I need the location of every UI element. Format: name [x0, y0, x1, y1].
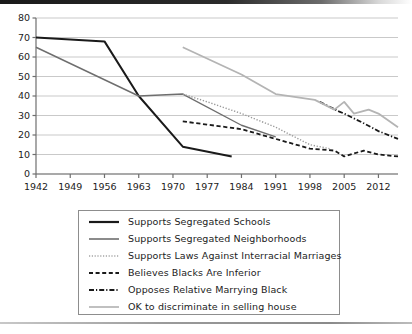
x-tick-label: 1991: [264, 181, 288, 192]
legend-item: Opposes Relative Marrying Black: [89, 281, 339, 298]
x-tick-label: 1970: [161, 181, 185, 192]
x-tick-label: 1942: [24, 181, 48, 192]
y-tick-label: 80: [18, 12, 30, 23]
dashdot-line-icon: [89, 285, 119, 295]
x-tick-label: 1984: [229, 181, 253, 192]
legend-item: Supports Laws Against Interracial Marria…: [89, 247, 339, 264]
series-line: [183, 94, 330, 149]
series-line: [183, 121, 398, 156]
legend-item-label: Opposes Relative Marrying Black: [128, 284, 287, 295]
series-line: [36, 38, 232, 157]
x-tick-label: 1956: [92, 181, 116, 192]
legend-item-label: Supports Segregated Neighborhoods: [128, 233, 307, 244]
solid-black-line-icon: [89, 217, 119, 227]
legend-item: Believes Blacks Are Inferior: [89, 264, 339, 281]
chart-svg: 01020304050607080 1942194919561963197019…: [0, 8, 412, 198]
y-tick-label: 30: [18, 110, 30, 121]
x-tick-label: 1977: [195, 181, 219, 192]
series-line: [36, 47, 276, 137]
legend-item-label: Believes Blacks Are Inferior: [128, 267, 261, 278]
y-tick-label: 0: [24, 168, 30, 179]
x-tick-label: 2005: [332, 181, 356, 192]
legend-item: Supports Segregated Neighborhoods: [89, 230, 339, 247]
legend-item-label: OK to discriminate in selling house: [128, 301, 297, 312]
line-chart: 01020304050607080 1942194919561963197019…: [0, 8, 412, 198]
data-series-group: [36, 38, 398, 157]
solid-gray-line-icon: [89, 234, 119, 244]
top-edge-bar: [0, 0, 412, 4]
y-tick-label: 40: [18, 90, 30, 101]
legend-item: Supports Segregated Schools: [89, 213, 339, 230]
y-tick-label: 50: [18, 71, 30, 82]
y-tick-label: 70: [18, 32, 30, 43]
bottom-edge-rule: [0, 322, 412, 324]
legend-item-label: Supports Laws Against Interracial Marria…: [128, 250, 342, 261]
chart-legend: Supports Segregated Schools Supports Seg…: [78, 210, 340, 315]
y-tick-labels: 01020304050607080: [18, 12, 30, 179]
y-tick-label: 60: [18, 51, 30, 62]
x-axis: [36, 174, 398, 178]
x-tick-labels: 1942194919561963197019771984199119982005…: [24, 181, 391, 192]
y-axis: [33, 18, 37, 174]
x-tick-label: 2012: [366, 181, 390, 192]
x-tick-label: 1963: [127, 181, 151, 192]
legend-item-label: Supports Segregated Schools: [128, 216, 271, 227]
dotted-line-icon: [89, 251, 119, 261]
y-tick-label: 10: [18, 149, 30, 160]
y-tick-label: 20: [18, 129, 30, 140]
legend-item: OK to discriminate in selling house: [89, 298, 339, 315]
x-tick-label: 1949: [58, 181, 82, 192]
dashed-line-icon: [89, 268, 119, 278]
x-tick-label: 1998: [298, 181, 322, 192]
solid-lightgray-line-icon: [89, 302, 119, 312]
